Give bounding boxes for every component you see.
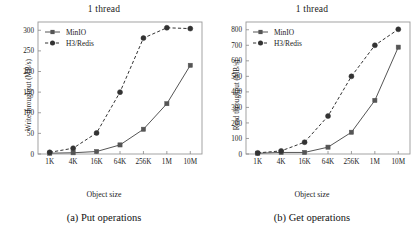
y-tick-label: 700	[231, 42, 242, 50]
data-point-marker	[118, 90, 123, 95]
x-tick-label: 1K	[253, 158, 263, 166]
y-tick-label: 0	[30, 151, 34, 159]
x-tick-label: 256K	[343, 158, 360, 166]
data-point-marker	[373, 98, 377, 102]
x-axis-label-get: Object size	[208, 190, 416, 199]
panel-get-operations: 1 thread Read throughput (MB/s) 01002003…	[208, 0, 416, 241]
y-tick-label: 400	[231, 88, 242, 96]
x-tick-label: 16K	[90, 158, 103, 166]
x-tick-label: 10M	[183, 158, 197, 166]
data-point-marker	[164, 25, 169, 30]
data-point-marker	[118, 143, 122, 147]
caption-put: (a) Put operations	[0, 212, 208, 223]
y-tick-label: 0	[238, 151, 242, 159]
x-tick-label: 10M	[391, 158, 405, 166]
x-tick-label: 64K	[322, 158, 335, 166]
chart-title-put: 1 thread	[0, 4, 208, 14]
series-line-minio	[50, 65, 191, 153]
data-point-marker	[255, 150, 260, 155]
legend-marker	[258, 41, 263, 46]
legend-label: H3/Redis	[66, 39, 94, 48]
legend-marker	[50, 41, 55, 46]
y-tick-label: 500	[231, 73, 242, 81]
y-tick-label: 150	[23, 89, 34, 97]
plot-area-put: 0501001502002503001K4K16K64K256K1M10MMin…	[0, 18, 208, 180]
x-tick-label: 1M	[370, 158, 381, 166]
data-point-marker	[326, 114, 331, 119]
caption-get: (b) Get operations	[208, 212, 416, 223]
y-tick-label: 800	[231, 26, 242, 34]
chart-title-get: 1 thread	[208, 4, 416, 14]
y-tick-label: 200	[23, 68, 34, 76]
x-tick-label: 4K	[277, 158, 287, 166]
figure-container: 1 thread Write throughput (MB/s) 0501001…	[0, 0, 416, 241]
series-line-h3-redis	[258, 29, 399, 153]
data-point-marker	[188, 63, 192, 67]
y-tick-label: 300	[231, 104, 242, 112]
data-point-marker	[302, 140, 307, 145]
chart-svg-get: 01002003004005006007008001K4K16K64K256K1…	[208, 18, 416, 180]
data-point-marker	[396, 27, 401, 32]
data-point-marker	[372, 43, 377, 48]
data-point-marker	[396, 45, 400, 49]
data-point-marker	[349, 74, 354, 79]
y-tick-label: 100	[231, 135, 242, 143]
data-point-marker	[47, 150, 52, 155]
chart-svg-put: 0501001502002503001K4K16K64K256K1M10MMin…	[0, 18, 208, 180]
legend-label: MinIO	[66, 28, 87, 37]
legend-label: MinIO	[274, 28, 295, 37]
x-tick-label: 256K	[135, 158, 152, 166]
y-tick-label: 600	[231, 57, 242, 65]
data-point-marker	[141, 127, 145, 131]
data-point-marker	[94, 130, 99, 135]
data-point-marker	[349, 130, 353, 134]
data-point-marker	[141, 36, 146, 41]
legend-label: H3/Redis	[274, 39, 302, 48]
y-tick-label: 250	[23, 47, 34, 55]
y-tick-label: 50	[27, 130, 35, 138]
x-tick-label: 4K	[69, 158, 79, 166]
data-point-marker	[165, 102, 169, 106]
y-tick-label: 200	[231, 120, 242, 128]
x-tick-label: 1M	[162, 158, 173, 166]
data-point-marker	[279, 148, 284, 153]
plot-area-get: 01002003004005006007008001K4K16K64K256K1…	[208, 18, 416, 180]
x-tick-label: 1K	[45, 158, 55, 166]
data-point-marker	[302, 150, 306, 154]
data-point-marker	[94, 149, 98, 153]
x-tick-label: 64K	[114, 158, 127, 166]
data-point-marker	[326, 145, 330, 149]
data-point-marker	[71, 151, 75, 155]
x-axis-label-put: Object size	[0, 190, 208, 199]
legend-marker	[50, 30, 54, 34]
data-point-marker	[71, 146, 76, 151]
panel-put-operations: 1 thread Write throughput (MB/s) 0501001…	[0, 0, 208, 241]
data-point-marker	[188, 26, 193, 31]
y-tick-label: 300	[23, 27, 34, 35]
y-tick-label: 100	[23, 109, 34, 117]
legend-marker	[258, 30, 262, 34]
x-tick-label: 16K	[298, 158, 311, 166]
